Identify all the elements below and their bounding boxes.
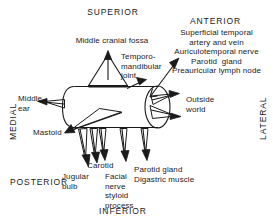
carotid-arrow-a bbox=[90, 129, 100, 164]
lateral-arrow-lower bbox=[150, 106, 181, 120]
label-jugular-bulb: Jugular bulb bbox=[62, 172, 89, 191]
axis-label-posterior: POSTERIOR bbox=[10, 177, 68, 187]
axis-label-medial: MEDIAL bbox=[8, 103, 18, 140]
parotid-digastric-arrow bbox=[141, 129, 150, 161]
label-anterior-structures: Superficial temporal artery and vein Aur… bbox=[160, 28, 273, 76]
label-facial-nerve-styloid: Facial nerve styloid process bbox=[105, 172, 134, 210]
figure-canvas: SUPERIOR Middle cranial fossa Temporo- m… bbox=[0, 0, 273, 222]
facial-nerve-styloid-arrow bbox=[120, 129, 129, 162]
label-parotid-digastric: Parotid gland Digastric muscle bbox=[134, 165, 194, 184]
mastoid-arrow bbox=[65, 109, 123, 134]
carotid-arrow-b bbox=[99, 129, 108, 161]
label-middle-ear: Middle ear bbox=[18, 94, 42, 113]
lateral-arrow-upper bbox=[151, 91, 180, 105]
label-middle-cranial-fossa: Middle cranial fossa bbox=[68, 36, 156, 46]
label-mastoid: Mastoid bbox=[33, 128, 62, 138]
label-outside-world: Outside world bbox=[186, 95, 214, 114]
superior-arrow bbox=[104, 51, 111, 81]
axis-label-lateral: LATERAL bbox=[258, 97, 268, 140]
label-temporomandibular-joint: Temporo- mandibular joint bbox=[121, 52, 162, 81]
axis-label-anterior: ANTERIOR bbox=[190, 16, 241, 26]
label-carotid: Carotid bbox=[87, 161, 114, 171]
axis-label-inferior: INFERIOR bbox=[88, 206, 158, 216]
axis-label-superior: SUPERIOR bbox=[78, 7, 148, 17]
